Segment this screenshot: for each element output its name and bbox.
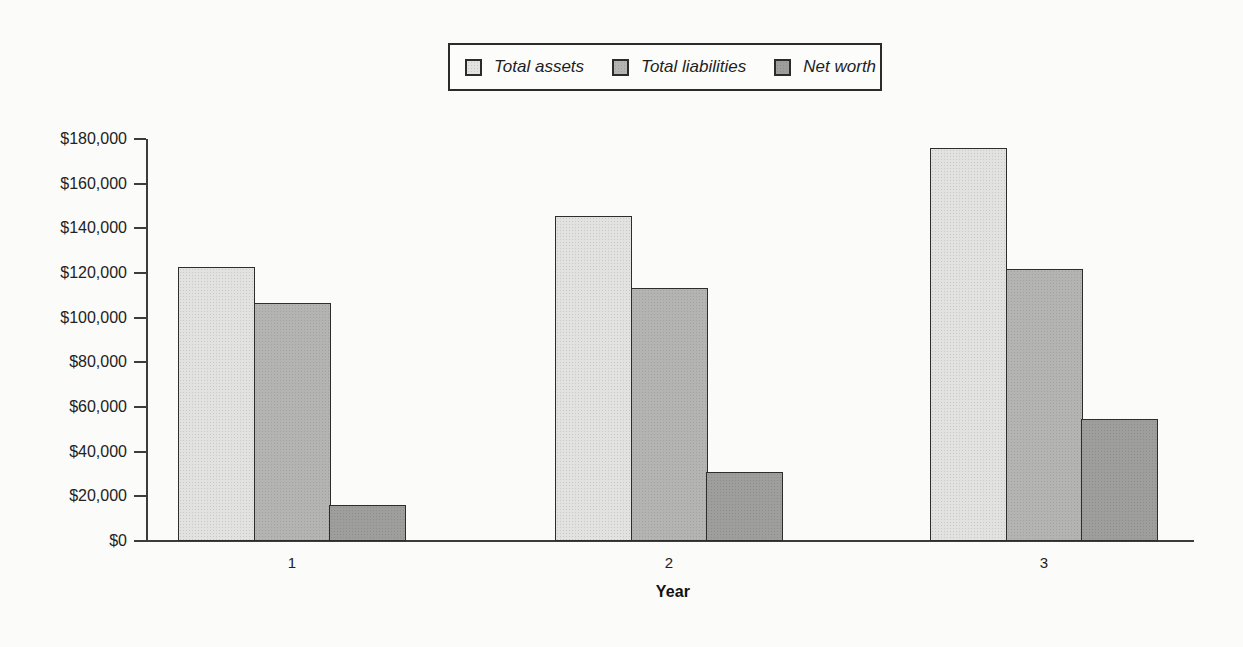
y-tick-label: $0 <box>17 532 127 550</box>
y-axis-line <box>146 139 148 542</box>
y-tick-label: $20,000 <box>17 487 127 505</box>
x-category-label-1: 1 <box>178 554 406 571</box>
plot-area: $0$20,000$40,000$60,000$80,000$100,000$1… <box>0 0 1243 647</box>
bar-total-liabilities-year-3 <box>1006 269 1083 541</box>
bar-total-assets-year-2 <box>555 216 632 541</box>
y-tick <box>134 272 146 274</box>
bar-total-assets-year-3 <box>930 148 1007 541</box>
chart-canvas: Total assetsTotal liabilitiesNet worth $… <box>0 0 1243 647</box>
bar-total-liabilities-year-2 <box>631 288 708 541</box>
x-category-label-3: 3 <box>930 554 1158 571</box>
bar-total-assets-year-1 <box>178 267 255 541</box>
y-tick-label: $140,000 <box>17 219 127 237</box>
y-tick <box>134 406 146 408</box>
bar-net-worth-year-3 <box>1081 419 1158 541</box>
y-tick-label: $180,000 <box>17 130 127 148</box>
bar-net-worth-year-1 <box>329 505 406 541</box>
y-tick-label: $100,000 <box>17 309 127 327</box>
y-tick <box>134 227 146 229</box>
y-tick-label: $80,000 <box>17 353 127 371</box>
x-category-label-2: 2 <box>555 554 783 571</box>
y-tick <box>134 317 146 319</box>
x-axis-title: Year <box>559 583 787 601</box>
y-tick <box>134 451 146 453</box>
y-tick-label: $60,000 <box>17 398 127 416</box>
y-tick <box>134 495 146 497</box>
y-tick-label: $160,000 <box>17 175 127 193</box>
bar-total-liabilities-year-1 <box>254 303 331 541</box>
y-tick <box>134 540 146 542</box>
y-tick <box>134 361 146 363</box>
y-tick-label: $40,000 <box>17 443 127 461</box>
y-tick-label: $120,000 <box>17 264 127 282</box>
bar-net-worth-year-2 <box>706 472 783 541</box>
y-tick <box>134 183 146 185</box>
y-tick <box>134 138 146 140</box>
